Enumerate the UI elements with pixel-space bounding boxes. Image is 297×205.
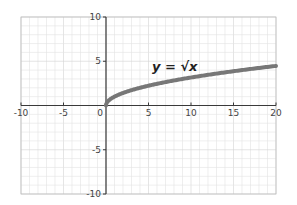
x-tick-label: 20 [270,108,282,118]
x-tick-label: 15 [228,108,239,118]
x-tick-label: 10 [185,108,197,118]
x-tick-label: 5 [146,108,152,118]
y-tick-label: -10 [86,189,101,199]
function-label: y = √x [152,59,198,74]
x-tick-label: -5 [59,108,68,118]
x-tick-label: -10 [14,108,29,118]
y-tick-label: 10 [90,12,102,22]
y-tick-label: -5 [92,145,101,155]
x-tick-label: 0 [97,108,103,118]
sqrt-function-chart: -10-505101520-10-5510 y = √x [0,0,297,205]
y-tick-label: 5 [95,56,101,66]
